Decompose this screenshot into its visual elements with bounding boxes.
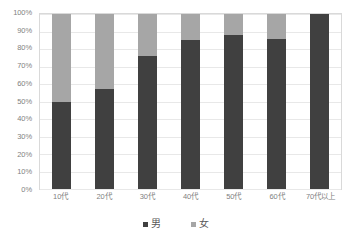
bar-segment-male[interactable] — [267, 39, 286, 190]
x-axis-tick-label: 40代 — [169, 193, 212, 201]
bar-stack — [310, 14, 329, 189]
bar-segment-female[interactable] — [138, 14, 157, 56]
bar-segment-male[interactable] — [138, 56, 157, 189]
x-axis-tick-label: 30代 — [126, 193, 169, 201]
bar-segment-female[interactable] — [224, 14, 243, 35]
x-axis-tick-label: 60代 — [255, 193, 298, 201]
bar-segment-female[interactable] — [181, 14, 200, 40]
bar-group[interactable] — [169, 14, 212, 189]
legend-label: 男 — [151, 219, 161, 229]
y-axis-tick-label: 10% — [17, 169, 32, 177]
y-axis-tick-label: 80% — [17, 45, 32, 53]
bar-segment-female[interactable] — [52, 14, 71, 102]
y-axis-tick-label: 30% — [17, 133, 32, 141]
y-axis: 0%10%20%30%40%50%60%70%80%90%100% — [0, 13, 36, 190]
y-axis-tick-label: 100% — [13, 9, 32, 17]
bar-segment-male[interactable] — [181, 40, 200, 189]
x-axis-tick-label: 50代 — [212, 193, 255, 201]
y-axis-tick-label: 90% — [17, 27, 32, 35]
bar-group[interactable] — [126, 14, 169, 189]
bar-stack — [224, 14, 243, 189]
bar-segment-male[interactable] — [224, 35, 243, 189]
bar-group[interactable] — [83, 14, 126, 189]
chart-legend: 男女 — [0, 219, 351, 229]
legend-swatch-icon — [143, 222, 148, 227]
bar-segment-female[interactable] — [95, 14, 114, 89]
legend-item[interactable]: 女 — [191, 219, 209, 229]
x-axis-tick-label: 70代以上 — [299, 193, 342, 201]
bar-stack — [95, 14, 114, 189]
legend-label: 女 — [199, 219, 209, 229]
legend-swatch-icon — [191, 222, 196, 227]
gridline — [40, 189, 341, 190]
bar-stack — [138, 14, 157, 189]
plot-area — [39, 13, 342, 190]
bar-segment-male[interactable] — [310, 14, 329, 189]
bar-stack — [267, 14, 286, 189]
x-axis-tick-label: 20代 — [82, 193, 125, 201]
y-axis-tick-label: 50% — [17, 98, 32, 106]
bar-group[interactable] — [298, 14, 341, 189]
bar-group[interactable] — [212, 14, 255, 189]
y-axis-tick-label: 20% — [17, 151, 32, 159]
x-axis: 10代20代30代40代50代60代70代以上 — [39, 193, 342, 209]
bar-segment-male[interactable] — [95, 89, 114, 189]
bar-group[interactable] — [255, 14, 298, 189]
bar-stack — [52, 14, 71, 189]
bar-segment-male[interactable] — [52, 102, 71, 190]
bars-layer — [40, 14, 341, 189]
bar-stack — [181, 14, 200, 189]
x-axis-tick-label: 10代 — [39, 193, 82, 201]
y-axis-tick-label: 70% — [17, 62, 32, 70]
y-axis-tick-label: 0% — [21, 186, 32, 194]
stacked-bar-chart: 0%10%20%30%40%50%60%70%80%90%100% 10代20代… — [0, 0, 351, 242]
y-axis-tick-label: 40% — [17, 115, 32, 123]
bar-segment-female[interactable] — [267, 14, 286, 39]
y-axis-tick-label: 60% — [17, 80, 32, 88]
bar-group[interactable] — [40, 14, 83, 189]
legend-item[interactable]: 男 — [143, 219, 161, 229]
